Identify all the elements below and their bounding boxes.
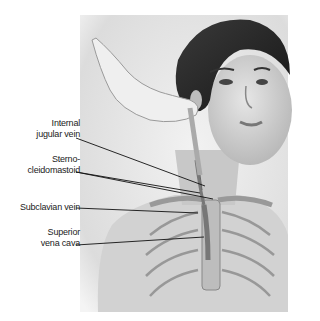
label-line: jugular vein <box>36 129 80 140</box>
label-line: cleidomastoid <box>28 165 80 176</box>
label-line: Internal <box>36 118 80 129</box>
label-line: Sterno- <box>28 154 80 165</box>
label-internal-jugular-vein: Internal jugular vein <box>36 118 80 140</box>
label-line: Subclavian vein <box>20 202 80 213</box>
label-superior-vena-cava: Superior vena cava <box>41 227 80 249</box>
eye-right <box>256 79 268 85</box>
eye-left <box>219 79 233 85</box>
label-sternocleidomastoid: Sterno- cleidomastoid <box>28 154 80 176</box>
face <box>208 55 292 165</box>
label-line: Superior <box>41 227 80 238</box>
label-subclavian-vein: Subclavian vein <box>20 202 80 213</box>
label-line: vena cava <box>41 238 80 249</box>
